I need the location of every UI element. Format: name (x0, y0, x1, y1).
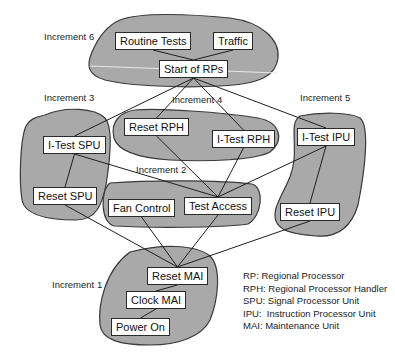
legend-item-rp: RP: Regional Processor (243, 270, 387, 283)
legend-item-ipu: IPU: Instruction Processor Unit (243, 308, 387, 321)
node-reset-spu[interactable]: Reset SPU (33, 187, 97, 205)
increment-label-inc5: Increment 5 (300, 92, 350, 103)
node-routine-tests[interactable]: Routine Tests (115, 32, 191, 50)
node-fan-control[interactable]: Fan Control (108, 199, 175, 217)
node-test-access[interactable]: Test Access (184, 197, 252, 215)
node-itest-rph[interactable]: I-Test RPH (212, 130, 275, 148)
increment-label-inc2: Increment 2 (136, 164, 186, 175)
increment-label-inc1: Increment 1 (52, 279, 102, 290)
node-itest-spu[interactable]: I-Test SPU (43, 136, 106, 154)
node-itest-ipu[interactable]: I-Test IPU (297, 128, 355, 146)
legend-item-mai: MAI: Maintenance Unit (243, 320, 387, 333)
increment-label-inc3: Increment 3 (44, 92, 94, 103)
node-reset-mai[interactable]: Reset MAI (147, 267, 208, 285)
legend-item-rph: RPH: Regional Processor Handler (243, 283, 387, 296)
node-reset-rph[interactable]: Reset RPH (124, 118, 189, 136)
legend-item-spu: SPU: Signal Processor Unit (243, 295, 387, 308)
node-reset-ipu[interactable]: Reset IPU (280, 203, 340, 221)
legend: RP: Regional Processor RPH: Regional Pro… (243, 270, 387, 333)
node-power-on[interactable]: Power On (111, 318, 170, 336)
node-clock-mai[interactable]: Clock MAI (126, 291, 186, 309)
node-start-rps[interactable]: Start of RPs (159, 60, 228, 78)
increment-label-inc6: Increment 6 (44, 31, 94, 42)
node-traffic[interactable]: Traffic (213, 32, 253, 50)
increment-label-inc4: Increment 4 (172, 94, 222, 105)
edge-reset_ipu-to-reset_mai (178, 221, 311, 267)
